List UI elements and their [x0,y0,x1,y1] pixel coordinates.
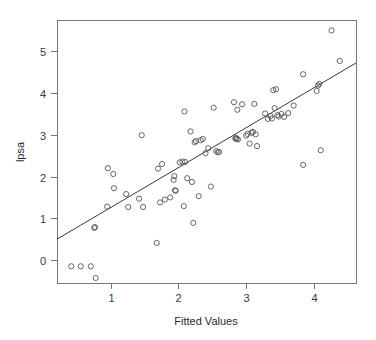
scatter-point [235,107,240,112]
scatter-point [189,179,194,184]
y-tick-label: 3 [40,130,46,142]
scatter-point [139,133,144,138]
scatter-point [286,110,291,115]
y-tick-label: 0 [40,255,46,267]
x-tick-label: 4 [311,292,317,304]
y-tick-label: 2 [40,172,46,184]
scatter-point [181,204,186,209]
y-tick-label: 5 [40,46,46,58]
scatter-point [329,28,334,33]
scatter-point [155,166,160,171]
scatter-point [136,196,141,201]
scatter-point [252,101,257,106]
y-tick-label: 1 [40,213,46,225]
scatter-point [239,102,244,107]
scatter-point [105,166,110,171]
scatter-point [196,194,201,199]
plot-frame-box [58,21,357,284]
scatter-point [263,111,268,116]
scatter-point [291,103,296,108]
scatter-point [254,143,259,148]
scatter-point [192,140,197,145]
scatter-point [337,58,342,63]
x-tick-label: 3 [243,292,249,304]
scatter-point [157,200,162,205]
scatter-point [172,174,177,179]
scatter-points-group [69,28,343,281]
scatter-point [231,100,236,105]
x-axis-title: Fitted Values [174,315,238,327]
y-axis-ticks: 012345 [40,46,57,267]
x-tick-label: 2 [175,292,181,304]
scatter-point [182,109,187,114]
scatter-point [301,162,306,167]
scatter-point [154,240,159,245]
scatter-point [318,148,323,153]
scatter-point [88,264,93,269]
scatter-plot-figure: 012345 1234 Fitted Values lpsa [0,0,376,340]
scatter-point [208,184,213,189]
scatter-point [93,275,98,280]
scatter-point [301,72,306,77]
scatter-point [162,197,167,202]
scatter-point [314,88,319,93]
scatter-point [191,220,196,225]
y-axis-title: lpsa [14,141,26,162]
scatter-point [105,204,110,209]
scatter-point [141,204,146,209]
scatter-point [188,129,193,134]
chart-canvas: 012345 1234 Fitted Values lpsa [0,0,376,340]
scatter-point [111,186,116,191]
y-tick-label: 4 [40,88,46,100]
scatter-point [111,171,116,176]
scatter-point [78,264,83,269]
scatter-point [126,204,131,209]
scatter-point [159,161,164,166]
x-axis-ticks: 1234 [108,283,317,304]
scatter-point [124,191,129,196]
x-tick-label: 1 [108,292,114,304]
scatter-point [185,176,190,181]
scatter-point [247,141,252,146]
scatter-point [168,195,173,200]
scatter-point [69,264,74,269]
scatter-point [272,105,277,110]
scatter-point [211,105,216,110]
